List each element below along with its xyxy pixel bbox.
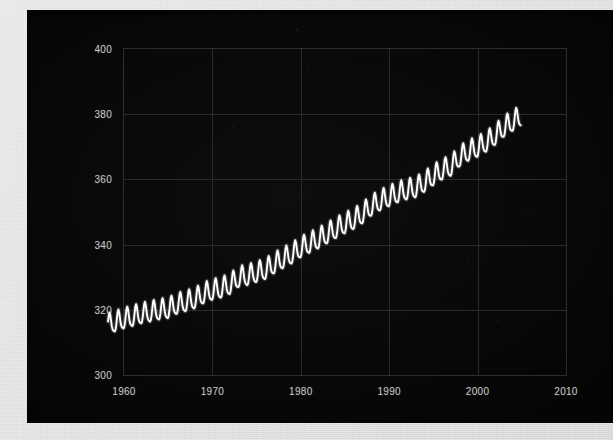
x-tick-label: 2000: [466, 386, 489, 397]
x-tick-label: 1960: [112, 386, 135, 397]
plot-area: 300320340360380400 196019701980199020002…: [123, 48, 567, 376]
x-tick-label: 1980: [289, 386, 312, 397]
y-tick-label: 400: [94, 44, 112, 55]
scanned-page: 300320340360380400 196019701980199020002…: [0, 0, 613, 440]
y-tick-label: 380: [94, 109, 112, 120]
x-tick-label: 2010: [554, 386, 577, 397]
y-tick-label: 300: [94, 370, 112, 381]
y-tick-label: 340: [94, 239, 112, 250]
y-tick-label: 360: [94, 174, 112, 185]
chart-figure-panel: 300320340360380400 196019701980199020002…: [27, 10, 613, 423]
scan-speck: [295, 28, 298, 31]
co2-curve-line: [108, 108, 521, 332]
x-tick-label: 1990: [377, 386, 400, 397]
x-tick-label: 1970: [201, 386, 224, 397]
co2-curve: [124, 49, 566, 375]
